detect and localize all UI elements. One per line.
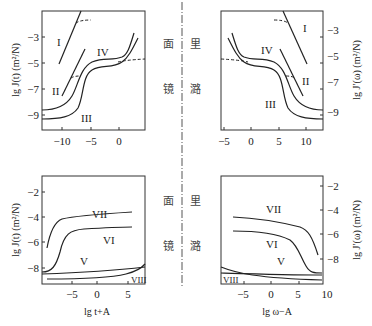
curve-I bbox=[283, 11, 307, 64]
mirror-label-left-top: 面 bbox=[163, 195, 174, 208]
x-tick-label: −5 bbox=[66, 288, 78, 300]
x-tick-label: 10 bbox=[322, 288, 334, 300]
y-tick-label: −7 bbox=[327, 76, 339, 88]
x-tick-label: 5 bbox=[276, 135, 282, 147]
panel-top-right: −3 −5 −7 −9 −5 0 5 10 lg J′(ω) (m²/N) I … bbox=[218, 11, 363, 147]
label-VI: VI bbox=[266, 238, 278, 250]
y-tick-label: −3 bbox=[327, 24, 339, 36]
x-tick-label: −5 bbox=[85, 135, 97, 147]
label-VIII: VIII bbox=[131, 275, 147, 285]
x-tick-label: 0 bbox=[94, 288, 100, 300]
curve-II-dashed bbox=[71, 76, 80, 78]
y-axis-label: lg J′(ω) (m²/N) bbox=[351, 40, 363, 100]
mirror-label-left-bottom: 镜 bbox=[163, 82, 174, 96]
label-VII: VII bbox=[266, 203, 282, 215]
y-tick-label: −3 bbox=[27, 31, 39, 43]
curve-IV bbox=[232, 33, 323, 110]
panel-bottom-right: −2 −4 −6 −8 −5 0 5 10 lg J′(ω) (m²/N) lg… bbox=[221, 176, 363, 317]
plot-frame bbox=[221, 11, 323, 130]
label-V: V bbox=[277, 255, 285, 267]
panel-bottom-left: −2 −4 −6 −8 −5 0 5 lg J(t) (m²/N) lg t+A… bbox=[10, 176, 147, 317]
mirror-label-right-bottom: 潞 bbox=[190, 82, 201, 96]
y-tick-label: −8 bbox=[27, 262, 39, 274]
mirror-label-right-bottom: 潞 bbox=[190, 239, 201, 253]
y-tick-label: −9 bbox=[327, 106, 339, 118]
y-tick-label: −8 bbox=[327, 253, 339, 265]
label-IV: IV bbox=[261, 44, 273, 56]
y-tick-label: −6 bbox=[327, 228, 339, 240]
x-axis-label: lg t+A bbox=[84, 306, 111, 317]
label-I: I bbox=[303, 22, 307, 34]
x-tick-label: 0 bbox=[268, 288, 274, 300]
y-axis-label: lg J(t) (m²/N) bbox=[10, 203, 22, 257]
panel-top-left: −3 −5 −7 −9 −10 −5 0 lg J(t) (m²/N) I II… bbox=[10, 11, 145, 147]
x-axis-label: lg ω−A bbox=[262, 306, 293, 317]
y-tick-label: −4 bbox=[27, 211, 39, 223]
curve-I-dashed bbox=[76, 20, 91, 23]
curve-VII bbox=[47, 212, 132, 248]
y-tick-label: −6 bbox=[27, 236, 39, 248]
label-V: V bbox=[80, 255, 88, 267]
y-tick-label: −7 bbox=[27, 83, 39, 95]
y-tick-label: −5 bbox=[327, 50, 339, 62]
curve-I-dashed bbox=[274, 20, 288, 23]
x-tick-label: 10 bbox=[301, 135, 313, 147]
curve-III bbox=[42, 38, 138, 119]
y-tick-label: −5 bbox=[27, 57, 39, 69]
y-axis-label: lg J(t) (m²/N) bbox=[10, 43, 22, 97]
x-tick-label: 0 bbox=[116, 135, 122, 147]
curve-I bbox=[59, 11, 81, 64]
label-III: III bbox=[81, 112, 92, 124]
figure: −3 −5 −7 −9 −10 −5 0 lg J(t) (m²/N) I II… bbox=[0, 0, 372, 326]
label-I: I bbox=[57, 36, 61, 48]
mirror-label-left-bottom: 镜 bbox=[163, 239, 174, 253]
x-tick-label: −5 bbox=[218, 135, 230, 147]
x-tick-label: 0 bbox=[248, 135, 254, 147]
y-tick-label: −4 bbox=[327, 204, 339, 216]
label-III: III bbox=[265, 98, 276, 110]
label-IV: IV bbox=[97, 46, 109, 58]
label-II: II bbox=[302, 75, 310, 87]
y-tick-label: −9 bbox=[27, 109, 39, 121]
x-tick-label: −5 bbox=[237, 288, 249, 300]
y-tick-label: −2 bbox=[27, 186, 39, 198]
label-VIII: VIII bbox=[223, 275, 239, 285]
x-tick-label: 5 bbox=[295, 288, 301, 300]
mirror-label-right-top: 里 bbox=[190, 38, 201, 51]
y-tick-label: −2 bbox=[327, 180, 339, 192]
label-II: II bbox=[52, 85, 60, 97]
plot-frame bbox=[42, 11, 145, 130]
mirror-label-right-top: 里 bbox=[190, 195, 201, 208]
y-axis-label: lg J′(ω) (m²/N) bbox=[351, 200, 363, 260]
x-tick-label: 5 bbox=[125, 288, 131, 300]
x-tick-label: −10 bbox=[53, 135, 71, 147]
plot-frame bbox=[42, 176, 145, 284]
label-VI: VI bbox=[103, 234, 115, 246]
mirror-label-left-top: 面 bbox=[163, 38, 174, 51]
curve-IV bbox=[42, 33, 134, 110]
label-VII: VII bbox=[92, 208, 108, 220]
